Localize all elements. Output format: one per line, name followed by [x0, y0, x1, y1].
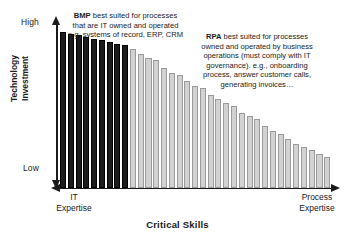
bar	[247, 116, 253, 188]
y-axis-line	[56, 24, 58, 186]
bar	[184, 81, 190, 188]
bar	[122, 45, 128, 188]
x-axis-line	[58, 188, 336, 190]
bar	[76, 35, 82, 188]
bar	[138, 54, 144, 188]
bar	[169, 73, 175, 188]
bar	[177, 75, 183, 188]
bar	[301, 147, 307, 188]
bar	[285, 139, 291, 188]
bar	[309, 150, 315, 188]
bar	[107, 42, 113, 188]
x-axis-start-label-line1: IT	[48, 192, 100, 203]
bar	[239, 113, 245, 188]
y-axis-tick-low: Low	[23, 163, 39, 173]
bar	[278, 134, 284, 188]
y-axis-title-line2: Investment	[19, 29, 30, 129]
bar	[192, 86, 198, 188]
bar	[223, 103, 229, 188]
x-axis-title: Critical Skills	[0, 219, 355, 230]
x-axis-end-label: Process Expertise	[286, 192, 348, 214]
bar	[130, 49, 136, 188]
annotation-rpa-lead: RPA	[206, 32, 221, 41]
bar	[316, 154, 322, 188]
bar	[324, 157, 330, 188]
x-axis-end-label-line2: Expertise	[286, 203, 348, 214]
bar	[99, 40, 105, 188]
bar	[60, 32, 66, 188]
bar	[215, 99, 221, 188]
bar	[153, 60, 159, 188]
bar	[200, 88, 206, 188]
x-axis-start-label: IT Expertise	[48, 192, 100, 214]
bar	[231, 106, 237, 188]
annotation-rpa: RPA best suited for processes owned and …	[196, 32, 318, 90]
bar	[68, 34, 74, 188]
bar	[145, 58, 151, 188]
bar	[254, 119, 260, 188]
y-axis-title: Technology Investment	[9, 29, 30, 129]
bar	[83, 37, 89, 188]
bar	[293, 144, 299, 188]
bar	[91, 39, 97, 188]
x-axis-right-arrow-icon	[331, 184, 340, 192]
y-axis-title-line1: Technology	[9, 29, 20, 129]
bar	[262, 126, 268, 188]
x-axis-start-label-line2: Expertise	[48, 203, 100, 214]
bar	[270, 131, 276, 188]
annotation-bmp-lead: BMP	[74, 11, 91, 20]
bar	[114, 44, 120, 188]
bar	[208, 95, 214, 188]
bar	[161, 68, 167, 188]
x-axis-end-label-line1: Process	[286, 192, 348, 203]
y-axis-tick-high: High	[21, 17, 39, 27]
annotation-bmp: BMP best suited for processes that are I…	[67, 11, 184, 40]
chart-figure: High Low Technology Investment IT Expert…	[0, 0, 355, 235]
